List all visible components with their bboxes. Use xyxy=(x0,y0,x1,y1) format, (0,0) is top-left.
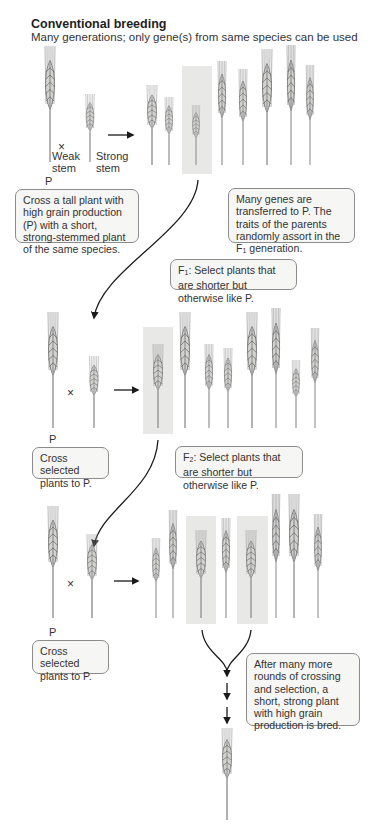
weak-stem-label-1: Weak xyxy=(52,150,80,162)
box-final-bred: After many more rounds of crossing and s… xyxy=(246,653,360,726)
row2-parents xyxy=(48,312,99,428)
box-cross-selected-2: Cross selected plants to P. xyxy=(32,640,109,674)
box-cross-selected-1: Cross selected plants to P. xyxy=(32,447,109,479)
row2-offspring xyxy=(153,308,319,428)
merge-left-curve xyxy=(202,630,227,672)
box-f1-select: F1: Select plants that are shorter but o… xyxy=(170,259,297,290)
row1-parent-marker: P xyxy=(45,175,52,187)
row3-parents xyxy=(48,506,97,618)
row3-parent-marker: P xyxy=(49,626,56,638)
box-genes-transferred: Many genes are transferred to P. The tra… xyxy=(228,188,355,243)
strong-stem-label-1: Strong xyxy=(96,150,128,162)
strong-stem-label-2: stem xyxy=(96,162,120,174)
row3-cross-symbol: × xyxy=(67,578,74,590)
final-plant xyxy=(222,728,232,820)
row2-cross-symbol: × xyxy=(67,387,74,399)
row1-offspring xyxy=(147,45,314,165)
genes-transferred-text-end: generation. xyxy=(246,242,302,254)
row1-parents xyxy=(45,46,94,162)
weak-stem-label-2: stem xyxy=(52,162,76,174)
row2-parent-marker: P xyxy=(49,433,56,445)
box-f2-select: F2: Select plants that are shorter but o… xyxy=(175,446,303,478)
box-cross-tall-plant: Cross a tall plant with high grain produ… xyxy=(15,189,139,243)
